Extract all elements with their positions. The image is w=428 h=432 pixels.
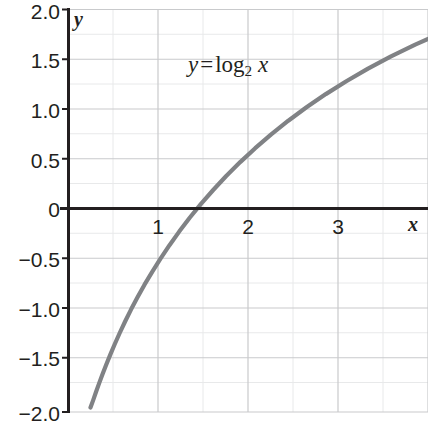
x-tick-label-1: 1 xyxy=(138,216,178,237)
y-tick-label--1.5: −1.5 xyxy=(2,348,60,369)
y-axis-label: y xyxy=(74,9,83,29)
equation-argument: x xyxy=(258,52,268,77)
y-tick-label-2.0: 2.0 xyxy=(2,1,60,22)
equation-lhs: y xyxy=(188,52,198,77)
x-tick-label-2: 2 xyxy=(228,216,268,237)
equation-base: 2 xyxy=(245,62,253,79)
logarithm-graph-figure: 2.0 1.5 1.0 0.5 0 −0.5 −1.0 −1.5 −2.0 1 … xyxy=(0,0,428,432)
x-axis-label: x xyxy=(408,214,418,234)
y-tick-label-0: 0 xyxy=(2,199,60,220)
y-tick-label-1.5: 1.5 xyxy=(2,50,60,71)
y-tick-label-1.0: 1.0 xyxy=(2,100,60,121)
equation-annotation: y=log2 x xyxy=(188,53,268,78)
y-tick-label--1.0: −1.0 xyxy=(2,299,60,320)
y-tick-label--2.0: −2.0 xyxy=(2,403,60,424)
y-tick-label--0.5: −0.5 xyxy=(2,249,60,270)
y-tick-label-0.5: 0.5 xyxy=(2,150,60,171)
equation-operator: = xyxy=(198,52,215,77)
x-tick-label-3: 3 xyxy=(318,216,358,237)
equation-function: log xyxy=(215,52,244,77)
